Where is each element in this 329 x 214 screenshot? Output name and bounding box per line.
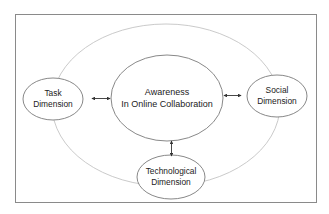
center-node-label: Awareness In Online Collaboration <box>121 86 213 110</box>
task-node-label: Task Dimension <box>33 88 73 110</box>
technological-node-label: Technological Dimension <box>146 166 197 188</box>
center-label-line1: Awareness <box>121 86 213 98</box>
task-label-line2: Dimension <box>33 99 73 110</box>
social-label-line1: Social <box>257 85 297 96</box>
center-label-line2: In Online Collaboration <box>121 98 213 110</box>
technological-label-line1: Technological <box>146 166 197 177</box>
social-label-line2: Dimension <box>257 96 297 107</box>
social-node-label: Social Dimension <box>257 85 297 107</box>
technological-label-line2: Dimension <box>146 177 197 188</box>
task-label-line1: Task <box>33 88 73 99</box>
